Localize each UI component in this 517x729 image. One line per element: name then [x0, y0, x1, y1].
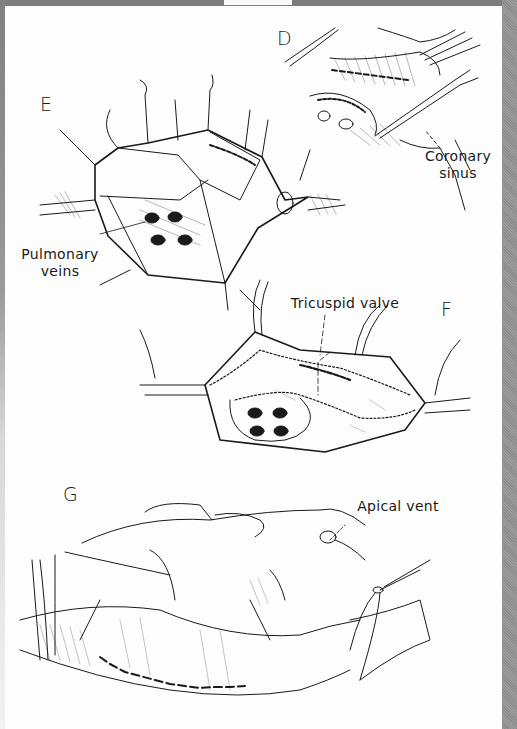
label-apical-vent-text: Apical vent: [348, 498, 448, 515]
label-pulmonary-veins: Pulmonary veins: [14, 246, 106, 280]
panel-d-drawing: [285, 28, 480, 210]
panel-letter-g: G: [63, 483, 78, 505]
label-coronary-sinus-line2: sinus: [418, 165, 498, 182]
label-pulmonary-veins-line1: Pulmonary: [14, 246, 106, 263]
surgical-illustration: [0, 0, 517, 729]
label-tricuspid-valve: Tricuspid valve: [280, 295, 410, 312]
label-pulmonary-veins-line2: veins: [14, 263, 106, 280]
label-tricuspid-valve-text: Tricuspid valve: [280, 295, 410, 312]
label-coronary-sinus-line1: Coronary: [418, 148, 498, 165]
label-coronary-sinus: Coronary sinus: [418, 148, 498, 182]
panel-letter-f: F: [441, 298, 452, 320]
panel-letter-e: E: [40, 93, 52, 115]
panel-g-drawing: [20, 504, 430, 695]
label-apical-vent: Apical vent: [348, 498, 448, 515]
panel-letter-d: D: [277, 27, 292, 49]
